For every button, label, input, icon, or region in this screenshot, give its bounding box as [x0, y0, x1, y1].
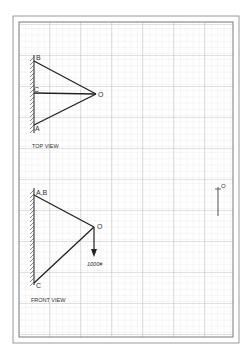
graph-paper-sheet: B C A O TOP VIEW — [0, 0, 250, 358]
front-label-o: O — [97, 223, 103, 230]
top-label-c: C — [34, 86, 39, 93]
front-view-title: FRONT VIEW — [31, 297, 66, 303]
side-label-o: O — [221, 183, 226, 189]
top-label-a: A — [35, 125, 40, 132]
top-label-b: B — [36, 54, 41, 61]
load-label: 1000# — [87, 261, 103, 267]
front-label-ab: A,B — [36, 189, 48, 196]
top-label-o: O — [98, 91, 104, 98]
grid — [19, 22, 233, 337]
top-view-title: TOP VIEW — [32, 143, 60, 149]
front-label-c: C — [36, 282, 41, 289]
